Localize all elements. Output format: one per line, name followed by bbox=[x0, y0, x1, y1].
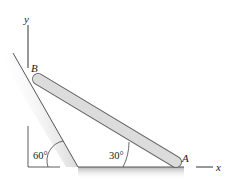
angle-60-label: 60° bbox=[33, 150, 48, 161]
x-axis-label: x bbox=[215, 161, 221, 173]
y-axis: y bbox=[23, 13, 29, 68]
angle-30-marker: 30° bbox=[109, 142, 129, 167]
point-b-label: B bbox=[31, 62, 38, 74]
diagram-canvas: y x B A 60° 30° bbox=[0, 0, 235, 183]
y-axis-label: y bbox=[23, 13, 29, 25]
floor bbox=[78, 167, 184, 179]
x-axis: x bbox=[196, 161, 221, 173]
angle-30-label: 30° bbox=[109, 150, 124, 161]
point-a-label: A bbox=[181, 152, 189, 164]
